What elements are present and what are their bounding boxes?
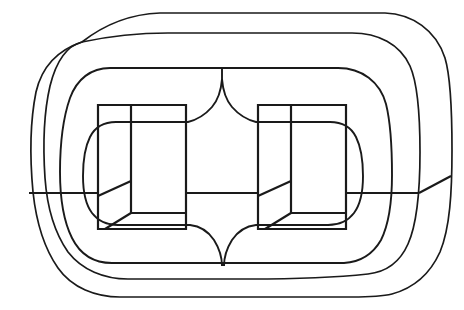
figure-root: Nested rounded-rectangle loop diagram wi…	[0, 0, 464, 310]
line-drawing-canvas	[0, 0, 464, 310]
